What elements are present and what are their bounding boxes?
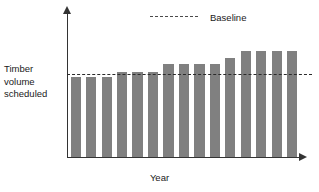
bar: [194, 64, 204, 157]
bar: [272, 51, 282, 157]
bar: [132, 72, 142, 157]
y-axis-title-line-2: volume: [4, 76, 64, 89]
bar: [241, 51, 251, 157]
bar: [210, 64, 220, 157]
y-axis-title: Timber volume scheduled: [4, 63, 64, 101]
timber-volume-bar-chart: Baseline Timber volume scheduled Year: [0, 0, 319, 192]
plot-area: [68, 12, 300, 157]
bar: [86, 77, 96, 157]
bar: [179, 64, 189, 157]
bar: [148, 72, 158, 157]
y-axis-title-line-3: scheduled: [4, 88, 64, 101]
x-axis-arrowhead-icon: [299, 153, 307, 161]
bar: [287, 51, 297, 157]
y-axis-title-line-1: Timber: [4, 63, 64, 76]
bar: [71, 77, 81, 157]
bar: [102, 77, 112, 157]
baseline-reference-line: [67, 74, 312, 75]
bar: [117, 72, 127, 157]
bar: [256, 51, 266, 157]
bar: [163, 64, 173, 157]
x-axis-line: [67, 157, 300, 158]
x-axis-title: Year: [0, 172, 319, 184]
